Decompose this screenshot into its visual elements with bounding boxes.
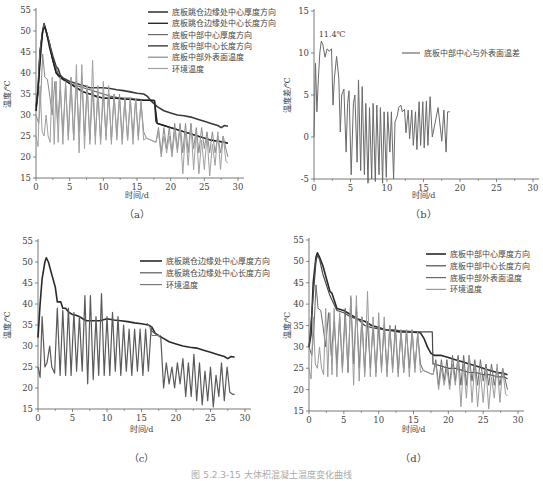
- y-tick-label: 0: [304, 132, 309, 142]
- x-tick-label: 10: [382, 183, 393, 193]
- y-tick-label: 55: [22, 236, 33, 246]
- y-tick-label: 25: [293, 363, 304, 373]
- x-tick-label: 25: [478, 415, 489, 425]
- annotation-peak: 11.4℃: [319, 30, 346, 39]
- x-tick-label: 0: [33, 182, 38, 192]
- y-tick-label: 45: [20, 47, 31, 57]
- x-tick-label: 25: [199, 182, 210, 192]
- x-tick-label: 30: [528, 183, 539, 193]
- y-axis-label: 温度/℃: [2, 80, 12, 108]
- y-tick-label: 35: [293, 321, 304, 331]
- legend-entry: 底板中部中心与外表面温差: [424, 48, 520, 58]
- x-tick-label: 5: [70, 413, 75, 423]
- chart-panel-b: -5051015051015202530时间/d温度差/℃11.4℃底板中部中心…: [280, 0, 543, 215]
- y-tick-label: 10: [298, 48, 309, 58]
- x-tick-label: 10: [102, 413, 113, 423]
- legend-entry: 底板中部中心厚度方向: [450, 249, 530, 259]
- legend-entry: 底板中部外表面温度: [172, 52, 244, 62]
- legend-entry: 底板跳仓边缘处中心长度方向: [172, 18, 276, 28]
- legend-entry: 环境温度: [172, 64, 204, 74]
- legend: 底板中部中心与外表面温差: [402, 48, 520, 58]
- legend: 底板跳仓边缘处中心厚度方向底板跳仓边缘处中心长度方向环境温度: [140, 256, 270, 290]
- y-tick-label: 50: [293, 256, 304, 266]
- y-tick-label: 40: [22, 299, 33, 309]
- x-axis-label: 时间/d: [402, 424, 426, 434]
- y-tick-label: 5: [304, 90, 309, 100]
- panel-label-a: （a）: [107, 206, 167, 221]
- series-line-5: [36, 60, 228, 175]
- legend-entry: 底板中部中心长度方向: [450, 261, 530, 271]
- y-axis-label: 温度差/℃: [282, 77, 292, 113]
- chart-d: 152025303540455055051015202530时间/d温度/℃底板…: [280, 232, 543, 447]
- x-tick-label: 30: [513, 415, 524, 425]
- x-tick-label: 5: [67, 182, 72, 192]
- y-tick-label: 15: [20, 173, 31, 183]
- y-axis-label: 温度/℃: [282, 312, 292, 340]
- x-axis-label: 时间/d: [125, 190, 149, 200]
- x-tick-label: 5: [348, 183, 353, 193]
- x-tick-label: 10: [373, 415, 384, 425]
- chart-panel-c: 152025303540455055051015202530时间/d温度/℃底板…: [0, 232, 280, 447]
- y-tick-label: 20: [20, 152, 31, 162]
- y-tick-label: 15: [298, 6, 309, 16]
- y-tick-label: 55: [293, 235, 304, 245]
- legend-entry: 底板中部中心厚度方向: [172, 30, 252, 40]
- y-tick-label: 15: [293, 406, 304, 416]
- y-axis-label: 温度/℃: [2, 311, 12, 339]
- x-axis-label: 时间/d: [412, 190, 436, 200]
- x-tick-label: 25: [205, 413, 216, 423]
- y-tick-label: 20: [22, 383, 33, 393]
- y-tick-label: 40: [20, 68, 31, 78]
- chart-panel-a: 152025303540455055051015202530时间/d温度/℃底板…: [0, 0, 280, 215]
- x-tick-label: 5: [341, 415, 346, 425]
- legend-entry: 环境温度: [166, 280, 198, 290]
- figure-caption: 图 5.2.3-15 大体积混凝土温度变化曲线: [0, 468, 543, 481]
- y-tick-label: 25: [22, 362, 33, 372]
- x-tick-label: 15: [136, 413, 147, 423]
- legend-entry: 底板跳仓边缘处中心厚度方向: [166, 256, 270, 266]
- legend: 底板中部中心厚度方向底板中部中心长度方向底板中部外表面温度环境温度: [426, 249, 530, 294]
- x-tick-label: 0: [306, 415, 311, 425]
- series-line-0: [314, 41, 450, 183]
- series-group: [314, 41, 450, 183]
- y-tick-label: 45: [293, 278, 304, 288]
- y-tick-label: 20: [293, 385, 304, 395]
- legend: 底板跳仓边缘处中心厚度方向底板跳仓边缘处中心长度方向底板中部中心厚度方向底板中部…: [148, 7, 276, 74]
- legend-entry: 底板中部外表面温度: [450, 273, 522, 283]
- y-tick-label: 35: [22, 320, 33, 330]
- y-tick-label: 50: [22, 257, 33, 267]
- series-line-0: [36, 25, 228, 128]
- y-tick-label: 45: [22, 278, 33, 288]
- y-tick-label: 30: [22, 341, 33, 351]
- panel-label-b: （b）: [394, 206, 454, 221]
- x-tick-label: 20: [165, 182, 176, 192]
- chart-c: 152025303540455055051015202530时间/d温度/℃底板…: [0, 232, 280, 447]
- y-tick-label: 35: [20, 89, 31, 99]
- y-tick-label: 30: [20, 110, 31, 120]
- legend-entry: 底板跳仓边缘处中心长度方向: [166, 268, 270, 278]
- legend-entry: 底板跳仓边缘处中心厚度方向: [172, 7, 276, 17]
- y-tick-label: 30: [293, 342, 304, 352]
- x-tick-label: 15: [408, 415, 419, 425]
- x-tick-label: 25: [491, 183, 502, 193]
- x-tick-label: 30: [233, 182, 244, 192]
- y-tick-label: 50: [20, 26, 31, 36]
- y-tick-label: 15: [22, 404, 33, 414]
- x-tick-label: 10: [98, 182, 109, 192]
- x-tick-label: 20: [171, 413, 182, 423]
- x-tick-label: 20: [443, 415, 454, 425]
- panel-label-d: （d）: [384, 450, 444, 465]
- y-tick-label: 40: [293, 299, 304, 309]
- x-tick-label: 0: [311, 183, 316, 193]
- x-axis-label: 时间/d: [130, 424, 154, 434]
- legend-entry: 底板中部中心长度方向: [172, 41, 252, 51]
- chart-panel-d: 152025303540455055051015202530时间/d温度/℃底板…: [280, 232, 543, 447]
- chart-a: 152025303540455055051015202530时间/d温度/℃底板…: [0, 0, 280, 215]
- series-group: [38, 258, 235, 407]
- x-tick-label: 0: [35, 413, 40, 423]
- y-tick-label: -5: [301, 174, 309, 184]
- x-tick-label: 30: [240, 413, 251, 423]
- chart-b: -5051015051015202530时间/d温度差/℃11.4℃底板中部中心…: [280, 0, 543, 215]
- panel-label-c: （c）: [112, 450, 172, 465]
- y-tick-label: 25: [20, 131, 31, 141]
